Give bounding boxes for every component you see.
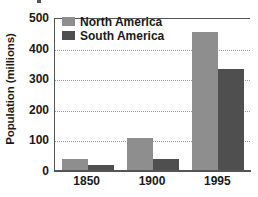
bar-group-1995 [192,19,244,171]
y-tick-label-200: 200 [29,103,49,117]
legend-label: North America [80,16,162,28]
x-tick-label-1995: 1995 [204,174,231,188]
x-tick-label-1850: 1850 [73,174,100,188]
legend-swatch-south-america-icon [62,31,75,40]
y-tick-label-500: 500 [29,11,49,25]
clipped-top-mark [37,0,41,3]
bar-1900-north-america[interactable] [127,138,153,171]
x-tick-label-1900: 1900 [139,174,166,188]
population-bar-chart: Population (millions) 0100200300400500 1… [0,0,258,197]
legend-swatch-north-america-icon [62,17,75,26]
bar-1995-south-america[interactable] [218,69,244,171]
y-axis-tick-labels: 0100200300400500 [18,18,52,171]
y-tick-label-100: 100 [29,133,49,147]
x-axis-line [54,170,251,172]
y-axis-title: Population (millions) [0,0,20,178]
y-tick-label-300: 300 [29,72,49,86]
y-axis-title-label: Population (millions) [4,33,16,145]
legend-item-north-america[interactable]: North America [62,15,164,28]
y-tick-label-0: 0 [42,164,49,178]
bar-1995-north-america[interactable] [192,32,218,171]
legend-item-south-america[interactable]: South America [62,29,164,42]
legend-label: South America [80,30,164,42]
x-axis-tick-labels: 185019001995 [54,174,250,194]
y-tick-label-400: 400 [29,42,49,56]
chart-legend: North AmericaSouth America [62,15,164,42]
